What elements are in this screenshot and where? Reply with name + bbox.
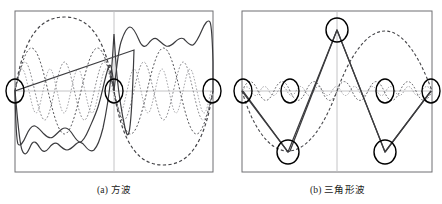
partial-sum-curve-lower bbox=[15, 65, 114, 145]
caption-panel-b: (b) 三角形波 bbox=[242, 182, 433, 196]
partial-sum-curve-upper bbox=[114, 21, 213, 91]
panel-triangle-wave bbox=[230, 0, 442, 180]
triangle-wave-plot bbox=[230, 0, 442, 180]
square-wave-plot bbox=[0, 0, 230, 180]
partial-sum-curve bbox=[15, 34, 134, 154]
caption-panel-a: (a) 方波 bbox=[15, 182, 213, 196]
panel-square-wave bbox=[0, 0, 230, 180]
figure-root: (a) 方波 (b) 三角形波 bbox=[0, 0, 442, 204]
